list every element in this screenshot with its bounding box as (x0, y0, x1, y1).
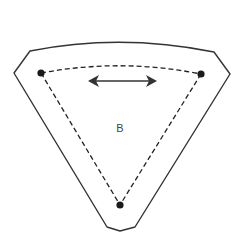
region-diagram: B (0, 0, 250, 251)
vertex-point-bottom (116, 201, 123, 208)
vertex-point-left (37, 69, 44, 76)
vertex-point-right (197, 70, 204, 77)
region-label: B (116, 122, 123, 134)
